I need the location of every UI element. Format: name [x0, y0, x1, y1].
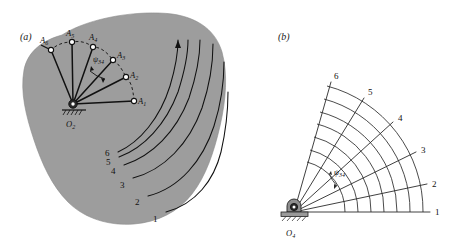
panel-a-caption: (a): [20, 31, 32, 43]
arc-4: [317, 124, 384, 212]
joint-A1: [131, 98, 136, 103]
panel-b-ray-labels: 1 2 3 4 5 6: [334, 71, 440, 217]
pivot-label-O4: O4: [286, 228, 295, 239]
arc-5: [320, 112, 397, 212]
joint-A5: [69, 39, 74, 44]
curve-label-3: 3: [120, 180, 125, 190]
joint-A6: [48, 47, 53, 52]
panel-a: (a) 6 5 4 3 2 1: [20, 13, 228, 224]
crank-link-5: [72, 42, 73, 104]
panel-b-caption: (b): [278, 31, 290, 43]
radial-rays: [294, 82, 430, 212]
ground-bar-O4: [281, 212, 308, 217]
pivot-O4: O4: [281, 199, 308, 239]
joint-A3: [110, 57, 115, 62]
ray-label-5: 5: [368, 87, 373, 97]
ray-label-4: 4: [398, 113, 403, 123]
curve-label-1: 1: [153, 214, 158, 224]
curve-label-2: 2: [135, 197, 140, 207]
ray-6: [294, 82, 331, 212]
ray-2: [294, 184, 427, 212]
body-blob: [23, 13, 226, 224]
ray-label-3: 3: [421, 145, 426, 155]
point-label-A6: A6: [39, 35, 48, 46]
arc-1: [307, 162, 345, 212]
panel-b: (b) 1 2 3 4 5 6: [278, 31, 440, 239]
angle-label-psi34-b: ψ34: [334, 168, 345, 178]
ground-hatching-O4: [282, 217, 306, 222]
ray-label-2: 2: [432, 179, 437, 189]
joint-A4: [90, 44, 95, 49]
curve-label-4: 4: [111, 166, 116, 176]
figure-root: (a) 6 5 4 3 2 1: [0, 0, 460, 245]
joint-A2: [123, 74, 128, 79]
ray-label-1: 1: [435, 207, 440, 217]
ray-label-6: 6: [334, 71, 339, 81]
